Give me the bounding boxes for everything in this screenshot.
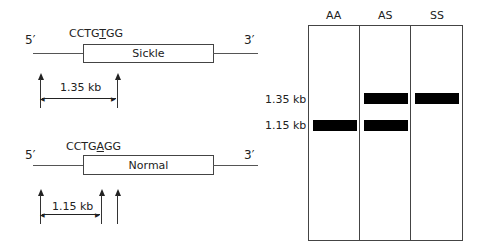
fragment-arrow-left-icon: ◀ [40, 96, 45, 102]
sickle-dna-line-left [33, 53, 84, 54]
size-marker-1-15: 1.15 kb [265, 120, 306, 131]
normal-sequence: CCTGAGG [66, 141, 121, 152]
restriction-site-line [101, 195, 102, 224]
lane-label-as: AS [378, 10, 393, 21]
fragment-arrow-left-icon: ◀ [40, 212, 45, 218]
restriction-site-line [40, 195, 41, 224]
sickle-mutation-base: T [99, 27, 106, 40]
lane-divider [410, 26, 411, 240]
restriction-site-arrow-icon [38, 73, 44, 80]
restriction-site-arrow-icon [99, 189, 105, 196]
lane-label-aa: AA [326, 10, 341, 21]
sickle-gene-box: Sickle [83, 44, 214, 63]
size-marker-1-35: 1.35 kb [265, 94, 306, 105]
sickle-dna-line-right [213, 53, 258, 54]
fragment-span-line [42, 98, 116, 99]
normal-dna-line-right [213, 165, 258, 166]
band-as-1-35 [364, 93, 408, 104]
lane-divider [359, 26, 360, 240]
restriction-site-arrow-icon [115, 73, 121, 80]
fragment-arrow-right-icon: ▶ [111, 96, 116, 102]
sickle-5prime-label: 5′ [25, 34, 35, 46]
sickle-sequence: CCTGTGG [69, 28, 123, 39]
normal-fragment-size: 1.15 kb [52, 201, 93, 212]
restriction-site-line [40, 79, 41, 108]
normal-5prime-label: 5′ [25, 149, 35, 161]
band-as-1-15 [364, 120, 408, 131]
normal-mutation-base: A [97, 140, 104, 153]
sickle-fragment-size: 1.35 kb [60, 82, 101, 93]
lane-label-ss: SS [430, 10, 444, 21]
restriction-site-arrow-icon [115, 189, 121, 196]
fragment-span-line [42, 214, 100, 215]
normal-gene-box: Normal [83, 155, 214, 175]
normal-dna-line-left [33, 165, 84, 166]
band-aa-1-15 [313, 120, 357, 131]
band-ss-1-35 [415, 93, 459, 104]
normal-3prime-label: 3′ [244, 149, 254, 161]
restriction-site-line [117, 195, 118, 224]
sickle-3prime-label: 3′ [244, 34, 254, 46]
restriction-site-line [117, 79, 118, 108]
fragment-arrow-right-icon: ▶ [95, 212, 100, 218]
gel-box [308, 25, 463, 241]
restriction-site-arrow-icon [38, 189, 44, 196]
